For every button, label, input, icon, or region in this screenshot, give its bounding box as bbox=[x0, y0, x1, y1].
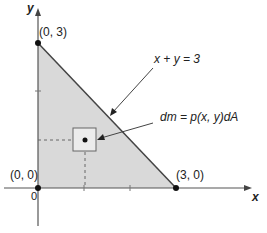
element-center-dot bbox=[83, 138, 88, 143]
mass-element-label: dm = p(x, y)dA bbox=[160, 110, 238, 124]
line-equation-label: x + y = 3 bbox=[154, 52, 200, 66]
y-axis-label: y bbox=[27, 1, 34, 15]
line-label-leader bbox=[113, 68, 153, 112]
point-label-0-0: (0, 0) bbox=[10, 168, 38, 182]
x-axis-label: x bbox=[252, 190, 259, 204]
x-axis-arrow-icon bbox=[244, 185, 252, 191]
y-axis-arrow-icon bbox=[35, 8, 41, 16]
point-label-3-0: (3, 0) bbox=[176, 168, 204, 182]
point-0-3 bbox=[35, 40, 41, 46]
point-3-0 bbox=[173, 185, 179, 191]
origin-tick-label: 0 bbox=[31, 190, 37, 202]
point-label-0-3: (0, 3) bbox=[39, 25, 67, 39]
